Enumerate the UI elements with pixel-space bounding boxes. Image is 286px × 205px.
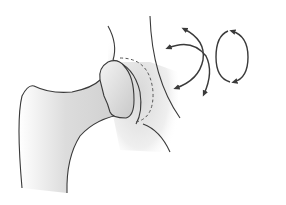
oval-arrow-left-icon [216,31,230,82]
hip-joint-diagram [0,0,286,205]
rotation-arrow-circular [216,31,248,82]
hip-joint-illustration [0,0,286,205]
oval-arrow-right-icon [232,31,248,82]
curved-double-arrow-icon [176,29,203,88]
